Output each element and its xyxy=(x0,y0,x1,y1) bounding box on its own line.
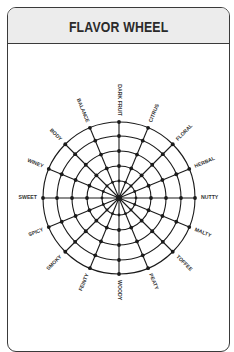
rating-point[interactable] xyxy=(124,181,127,184)
spoke-label: SMOKY xyxy=(45,253,63,271)
rating-point[interactable] xyxy=(99,153,103,157)
spoke-floral xyxy=(119,144,173,198)
spoke-label: PEATY xyxy=(148,272,160,290)
rating-point[interactable] xyxy=(141,139,145,143)
rating-point[interactable] xyxy=(146,126,150,130)
spoke-label: CITRUS xyxy=(147,103,160,124)
rating-point[interactable] xyxy=(63,250,67,254)
rating-point[interactable] xyxy=(94,219,98,223)
spoke-label: MALTY xyxy=(194,226,213,238)
rating-point[interactable] xyxy=(174,220,178,224)
rating-point[interactable] xyxy=(117,164,121,168)
rating-point[interactable] xyxy=(171,142,175,146)
rating-point[interactable] xyxy=(133,190,136,193)
rating-point[interactable] xyxy=(74,178,78,182)
rating-point[interactable] xyxy=(164,196,168,200)
rating-point[interactable] xyxy=(93,253,97,257)
rating-point[interactable] xyxy=(187,167,191,171)
rating-point[interactable] xyxy=(187,225,191,229)
rating-point[interactable] xyxy=(129,226,133,230)
rating-point[interactable] xyxy=(111,181,114,184)
rating-point[interactable] xyxy=(129,167,133,171)
rating-point[interactable] xyxy=(99,240,103,244)
rating-point[interactable] xyxy=(133,203,136,206)
rating-point[interactable] xyxy=(117,120,121,124)
rating-point[interactable] xyxy=(60,220,64,224)
rating-point[interactable] xyxy=(60,172,64,176)
rating-point[interactable] xyxy=(140,173,144,177)
rating-point[interactable] xyxy=(88,126,92,130)
rating-point[interactable] xyxy=(117,258,121,262)
rating-point[interactable] xyxy=(63,142,67,146)
rating-point[interactable] xyxy=(88,208,92,212)
rating-point[interactable] xyxy=(147,184,151,188)
spoke-smoky xyxy=(65,198,119,252)
spoke-body xyxy=(65,144,119,198)
rating-point[interactable] xyxy=(111,212,114,215)
rating-point[interactable] xyxy=(70,196,74,200)
rating-point[interactable] xyxy=(106,209,109,212)
rating-point[interactable] xyxy=(55,196,59,200)
wheel-hub xyxy=(116,195,122,201)
spoke-label: BALANCE xyxy=(76,97,91,123)
rating-point[interactable] xyxy=(94,173,98,177)
rating-point[interactable] xyxy=(150,229,154,233)
rating-point[interactable] xyxy=(193,196,197,200)
rating-point[interactable] xyxy=(102,190,105,193)
rating-point[interactable] xyxy=(117,243,121,247)
rating-point[interactable] xyxy=(47,225,51,229)
rating-point[interactable] xyxy=(130,209,133,212)
rating-point[interactable] xyxy=(171,250,175,254)
rating-point[interactable] xyxy=(41,196,45,200)
rating-point[interactable] xyxy=(105,226,109,230)
rating-point[interactable] xyxy=(74,214,78,218)
rating-point[interactable] xyxy=(88,184,92,188)
rating-point[interactable] xyxy=(135,240,139,244)
rating-point[interactable] xyxy=(84,229,88,233)
rating-point[interactable] xyxy=(117,149,121,153)
rating-point[interactable] xyxy=(147,208,151,212)
rating-point[interactable] xyxy=(73,152,77,156)
spoke-label: DARK FRUIT xyxy=(117,84,123,117)
rating-point[interactable] xyxy=(161,152,165,156)
spoke-label: NUTTY xyxy=(201,194,219,200)
rating-point[interactable] xyxy=(174,172,178,176)
rating-point[interactable] xyxy=(88,266,92,270)
spoke-label: SWEET xyxy=(19,194,38,200)
spoke-toffee xyxy=(119,198,173,252)
rating-point[interactable] xyxy=(146,266,150,270)
rating-point[interactable] xyxy=(130,185,133,188)
rating-point[interactable] xyxy=(161,214,165,218)
spoke-label: FEINTY xyxy=(77,272,90,292)
rating-point[interactable] xyxy=(105,167,109,171)
rating-point[interactable] xyxy=(135,153,139,157)
rating-point[interactable] xyxy=(141,253,145,257)
rating-point[interactable] xyxy=(117,272,121,276)
rating-point[interactable] xyxy=(179,196,183,200)
rating-point[interactable] xyxy=(140,219,144,223)
rating-point[interactable] xyxy=(135,197,138,200)
spoke-label: TOFFEE xyxy=(175,253,194,272)
spoke-label: BODY xyxy=(49,127,64,142)
rating-point[interactable] xyxy=(117,228,121,232)
rating-point[interactable] xyxy=(101,197,104,200)
rating-point[interactable] xyxy=(161,240,165,244)
rating-point[interactable] xyxy=(84,163,88,167)
rating-point[interactable] xyxy=(73,240,77,244)
rating-point[interactable] xyxy=(47,167,51,171)
rating-point[interactable] xyxy=(85,196,89,200)
rating-point[interactable] xyxy=(124,212,127,215)
rating-point[interactable] xyxy=(117,134,121,138)
rating-point[interactable] xyxy=(93,139,97,143)
spoke-label: HERBAL xyxy=(193,155,216,169)
rating-point[interactable] xyxy=(102,203,105,206)
spoke-label: SPICY xyxy=(27,226,44,238)
rating-point[interactable] xyxy=(149,196,153,200)
rating-point[interactable] xyxy=(106,185,109,188)
rating-point[interactable] xyxy=(161,178,165,182)
rating-point[interactable] xyxy=(150,163,154,167)
spoke-label: FLORAL xyxy=(174,122,194,142)
rating-point[interactable] xyxy=(118,180,121,183)
rating-point[interactable] xyxy=(118,214,121,217)
